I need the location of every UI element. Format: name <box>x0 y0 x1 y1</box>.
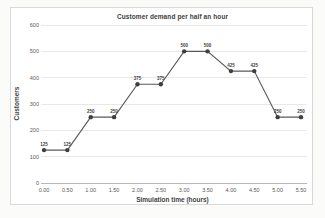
y-tick-label: 300 <box>30 101 39 107</box>
x-tick-label: 3.00 <box>179 187 190 193</box>
x-tick-label: 1.50 <box>109 187 120 193</box>
x-tick-label: 5.50 <box>296 187 307 193</box>
data-point <box>182 49 186 53</box>
data-point <box>135 82 139 86</box>
data-point <box>299 115 303 119</box>
data-point-label: 500 <box>180 43 188 48</box>
data-point-label: 125 <box>40 142 48 147</box>
x-tick-label: 4.50 <box>249 187 260 193</box>
y-tick-label: 100 <box>30 154 39 160</box>
data-point <box>112 115 116 119</box>
y-axis-title: Customers <box>13 54 20 154</box>
x-tick-label: 0.00 <box>39 187 50 193</box>
data-point <box>205 49 209 53</box>
data-point <box>89 115 93 119</box>
data-point-label: 250 <box>297 109 305 114</box>
y-tick-label: 200 <box>30 127 39 133</box>
y-tick-label: 600 <box>30 22 39 28</box>
x-tick-label: 1.00 <box>85 187 96 193</box>
data-point <box>229 69 233 73</box>
data-point-label: 375 <box>134 76 142 81</box>
x-tick-label: 2.00 <box>132 187 143 193</box>
x-tick-label: 4.00 <box>226 187 237 193</box>
data-point <box>252 69 256 73</box>
chart-frame: Customer demand per half an hour 0100200… <box>10 7 313 205</box>
x-tick-label: 2.50 <box>155 187 166 193</box>
y-tick-label: 500 <box>30 48 39 54</box>
chart-plot-area: 01002003004005006000.000.501.001.502.002… <box>11 8 314 206</box>
x-axis-title: Simulation time (hours) <box>44 196 301 203</box>
x-tick-label: 5.00 <box>272 187 283 193</box>
data-point-label: 425 <box>227 63 235 68</box>
data-point-label: 375 <box>157 76 165 81</box>
screenshot-canvas: Customer demand per half an hour 0100200… <box>0 0 325 218</box>
data-point-label: 125 <box>64 142 72 147</box>
data-point-label: 250 <box>110 109 118 114</box>
data-point-label: 425 <box>251 63 259 68</box>
data-point <box>275 115 279 119</box>
data-point <box>42 148 46 152</box>
data-point-label: 250 <box>87 109 95 114</box>
data-point-label: 500 <box>204 43 212 48</box>
y-tick-label: 0 <box>36 180 39 186</box>
data-point-label: 250 <box>274 109 282 114</box>
y-tick-label: 400 <box>30 75 39 81</box>
data-point <box>65 148 69 152</box>
data-point <box>159 82 163 86</box>
x-tick-label: 0.50 <box>62 187 73 193</box>
series-line <box>44 51 301 150</box>
x-tick-label: 3.50 <box>202 187 213 193</box>
